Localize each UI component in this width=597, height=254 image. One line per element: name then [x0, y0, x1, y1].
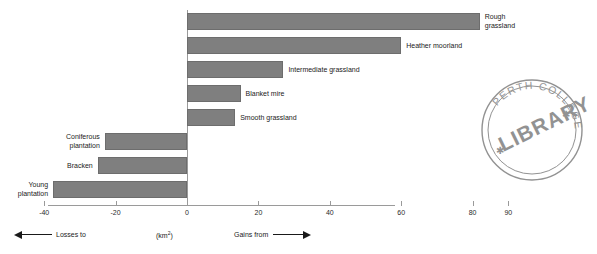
x-axis-tick-label: 20 — [254, 209, 262, 216]
unit-label: (km2) — [156, 230, 173, 239]
x-axis-tick-label: 80 — [469, 209, 477, 216]
bar-label: Smooth grassland — [240, 114, 360, 123]
x-axis-tick — [330, 201, 331, 206]
bar-chart: -40-2002040608090 Rough grasslandHeather… — [0, 0, 597, 254]
x-axis-tick-label: 0 — [185, 209, 189, 216]
bar — [187, 85, 241, 102]
x-axis-tick — [401, 201, 402, 206]
bar-label: Bracken — [0, 162, 93, 171]
x-axis-tick-label: -20 — [111, 209, 121, 216]
x-axis-tick-label: 90 — [504, 209, 512, 216]
x-axis-tick-label: 60 — [397, 209, 405, 216]
bar-label: Blanket mire — [246, 90, 366, 99]
losses-direction-annotation: Losses to — [14, 230, 86, 239]
plot-area: -40-2002040608090 Rough grasslandHeather… — [0, 0, 597, 254]
gains-direction-annotation: Gains from — [234, 230, 311, 239]
bar — [98, 157, 187, 174]
x-axis-tick — [116, 201, 117, 206]
arrow-left-icon — [14, 230, 52, 239]
x-axis-tick — [473, 201, 474, 206]
arrow-right-icon — [273, 230, 311, 239]
bar — [105, 133, 187, 150]
bar-label: Coniferous plantation — [0, 133, 100, 150]
bar — [187, 37, 401, 54]
bar-label: Young plantation — [0, 181, 48, 198]
bar — [187, 61, 283, 78]
losses-label: Losses to — [56, 231, 86, 238]
x-axis-tick-label: 40 — [326, 209, 334, 216]
x-axis-tick — [44, 201, 45, 206]
bar-label: Intermediate grassland — [288, 66, 408, 75]
gains-label: Gains from — [234, 231, 268, 238]
x-axis-line — [48, 205, 395, 206]
unit-text: (km — [156, 232, 168, 239]
bar — [187, 109, 235, 126]
x-axis-tick — [258, 201, 259, 206]
x-axis-tick — [508, 201, 509, 206]
bar-label: Rough grassland — [485, 13, 597, 30]
bar — [53, 181, 187, 198]
x-axis-tick-label: -40 — [39, 209, 49, 216]
bar-label: Heather moorland — [406, 42, 526, 51]
x-axis-tick — [187, 201, 188, 206]
bar — [187, 13, 480, 30]
unit-close-paren: ) — [170, 232, 172, 239]
